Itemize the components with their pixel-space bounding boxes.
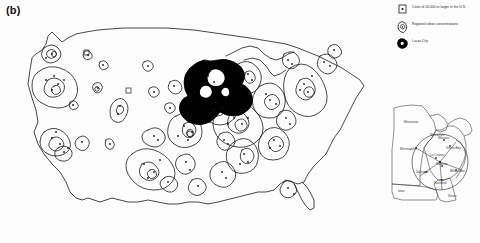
inset-city-label: La Crosse (430, 153, 444, 157)
urban-contour (217, 132, 235, 150)
inset-city-label: Rockford (434, 181, 447, 185)
study-area-highlight (179, 59, 252, 124)
urban-contour (282, 52, 299, 69)
urban-contour (75, 136, 89, 151)
inset-labels: Minnesota Wisconsin Iowa Illinois Minnea… (398, 120, 465, 198)
upper-midwest-inset-map: Minnesota Wisconsin Iowa Illinois Minnea… (386, 100, 478, 204)
boxed-city-symbols (51, 50, 193, 137)
legend-label-study-area: Lucas City (412, 39, 428, 43)
inset-city-label: Wausau (438, 136, 450, 140)
urban-contour (188, 178, 206, 195)
urban-contour (110, 98, 128, 122)
study-area-blob-icon (396, 36, 409, 50)
urban-contour (176, 154, 196, 174)
great-lakes-inner (244, 58, 286, 76)
lake-superior-edge (448, 118, 472, 136)
urban-contour (142, 128, 165, 147)
urban-contour-icon (396, 19, 409, 33)
inset-state-label: Minnesota (404, 120, 419, 124)
urban-contour (280, 181, 297, 198)
urban-contour (304, 87, 315, 98)
urban-contour (235, 119, 247, 131)
legend-label-urban: Regional urban concentrations (412, 22, 458, 26)
urban-contour (210, 161, 236, 187)
figure-panel-b: (b) (0, 0, 480, 243)
urban-contour (126, 149, 175, 190)
inset-state-label: Iowa (398, 189, 405, 193)
minnesota-outline (392, 105, 436, 186)
inset-city-label: Minneapolis (400, 147, 417, 151)
legend-label-cities: Cities of 20,000 or larger in the U.S. (412, 5, 466, 9)
arrowhead-outline (430, 114, 448, 132)
legend-item-study-area: Lucas City (396, 36, 480, 51)
florida-outline (294, 182, 314, 210)
inset-city-label: Green Bay (446, 146, 461, 150)
urban-contour (168, 80, 182, 94)
inset-state-label: Illinois (448, 194, 457, 198)
urban-contour (284, 64, 328, 117)
united-states-map (8, 14, 390, 226)
inset-road (440, 142, 456, 162)
urban-contour (160, 176, 178, 192)
urban-contour (55, 146, 72, 161)
urban-contour (147, 169, 156, 178)
urban-contour (245, 71, 256, 83)
map-legend: Cities of 20,000 or larger in the U.S. R… (396, 2, 480, 52)
urban-contour (328, 44, 342, 58)
urban-contour (276, 110, 296, 130)
urban-contour (296, 78, 316, 100)
city-point-box-icon (396, 2, 409, 16)
inset-city-label: Madison (436, 162, 448, 166)
great-lakes-outline (226, 46, 294, 60)
legend-item-urban: Regional urban concentrations (396, 19, 480, 34)
urban-contour (264, 94, 279, 109)
urban-contour (240, 148, 254, 164)
inset-city-label: Milwaukee (450, 169, 465, 173)
urban-contour (268, 136, 283, 151)
inset-city-label: Dubuque (416, 170, 429, 174)
legend-item-cities: Cities of 20,000 or larger in the U.S. (396, 2, 480, 17)
urban-contour (182, 122, 196, 138)
